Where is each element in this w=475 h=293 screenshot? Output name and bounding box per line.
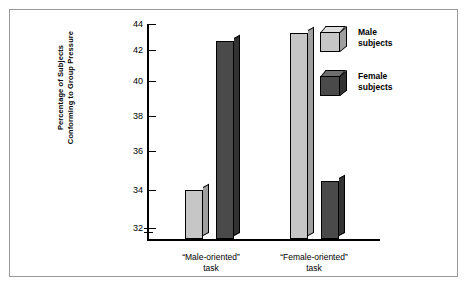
- male-swatch-icon: [320, 26, 340, 46]
- legend-label-male-line1: Male: [358, 27, 377, 37]
- legend-label-female: Female subjects: [358, 71, 393, 93]
- y-tick-40: [149, 81, 156, 82]
- bar-chart-plot: 44 42 40 38 36 34 32 Percentage of Subje…: [0, 0, 475, 293]
- legend-label-female-line1: Female: [358, 71, 387, 81]
- legend-item-female: Female subjects: [318, 66, 438, 110]
- y-tick-36: [149, 151, 156, 152]
- bar-side-face: [234, 35, 240, 236]
- bar-face: [185, 190, 203, 239]
- y-tick-label-42: 42: [121, 46, 143, 55]
- y-axis-title-line1: Percentage of Subjects: [56, 45, 65, 130]
- bar-side-face: [203, 184, 209, 236]
- bar-male-male-oriented: [185, 190, 203, 239]
- y-tick-label-44-wrap: 44: [121, 20, 143, 29]
- y-tick-label-42-wrap: 42: [121, 46, 143, 55]
- x-axis-line: [147, 239, 380, 241]
- legend-label-female-line2: subjects: [358, 82, 393, 93]
- y-tick-label-40: 40: [121, 77, 143, 86]
- x-axis-label-female-oriented: “Female-oriented” task: [259, 252, 369, 274]
- bar-face: [290, 33, 308, 239]
- x-axis-label-line1: “Female-oriented”: [280, 252, 348, 262]
- bar-side-face: [339, 175, 345, 236]
- y-tick-42: [149, 50, 156, 51]
- y-tick-label-40-wrap: 40: [121, 77, 143, 86]
- figure-container: 44 42 40 38 36 34 32 Percentage of Subje…: [0, 0, 475, 293]
- y-tick-34: [149, 190, 156, 191]
- bar-face: [321, 181, 339, 239]
- chart-legend: Male subjects Female subjects: [318, 22, 438, 110]
- bar-face: [216, 41, 234, 239]
- x-axis-label-line1: “Male-oriented”: [182, 252, 240, 262]
- legend-item-male: Male subjects: [318, 22, 438, 66]
- bar-female-male-oriented: [216, 41, 234, 239]
- x-axis-label-male-oriented: “Male-oriented” task: [156, 252, 266, 274]
- x-axis-label-line2: task: [156, 263, 266, 274]
- bar-female-female-oriented: [321, 181, 339, 239]
- y-tick-label-34: 34: [121, 186, 143, 195]
- y-tick-label-38: 38: [121, 112, 143, 121]
- legend-label-male: Male subjects: [358, 27, 393, 49]
- x-axis-label-line2: task: [259, 263, 369, 274]
- y-tick-label-34-wrap: 34: [121, 186, 143, 195]
- y-tick-label-38-wrap: 38: [121, 112, 143, 121]
- y-axis-title-line2: Conforming to Group Pressure: [65, 13, 75, 163]
- y-axis-title: Percentage of Subjects Conforming to Gro…: [56, 13, 75, 163]
- y-tick-label-36: 36: [121, 147, 143, 156]
- y-tick-label-32-wrap: 32: [121, 224, 143, 233]
- y-tick-label-36-wrap: 36: [121, 147, 143, 156]
- y-tick-38: [149, 116, 156, 117]
- y-tick-44: [149, 24, 156, 25]
- y-axis-line: [147, 24, 149, 240]
- y-tick-label-44: 44: [121, 20, 143, 29]
- bar-side-face: [308, 27, 314, 236]
- legend-label-male-line2: subjects: [358, 38, 393, 49]
- female-swatch-icon: [320, 70, 340, 90]
- bar-male-female-oriented: [290, 33, 308, 239]
- y-tick-32: [149, 228, 156, 229]
- y-tick-label-32: 32: [121, 224, 143, 233]
